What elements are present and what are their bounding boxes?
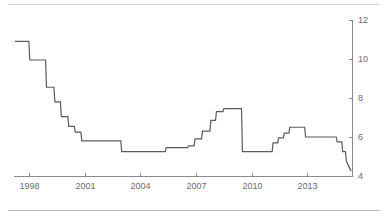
x-axis-tick-labels: 199820012004200720102013 — [19, 181, 317, 191]
series-line-rate — [15, 41, 351, 171]
y-tick-label-10: 10 — [358, 54, 368, 64]
y-tick-label-8: 8 — [358, 93, 363, 103]
y-tick-label-4: 4 — [358, 171, 363, 181]
y-axis-tick-labels: 4681012 — [358, 15, 368, 181]
x-tick-label-1998: 1998 — [19, 181, 39, 191]
chart-canvas: 4681012 199820012004200720102013 — [0, 0, 388, 216]
series-group — [15, 41, 351, 171]
x-tick-label-2010: 2010 — [242, 181, 262, 191]
x-tick-label-2001: 2001 — [75, 181, 95, 191]
y-tick-label-12: 12 — [358, 15, 368, 25]
y-tick-label-6: 6 — [358, 132, 363, 142]
x-tick-label-2013: 2013 — [297, 181, 317, 191]
axis-group — [14, 20, 353, 177]
x-tick-label-2007: 2007 — [186, 181, 206, 191]
line-chart-plot: 4681012 199820012004200720102013 — [0, 0, 388, 216]
x-tick-label-2004: 2004 — [130, 181, 150, 191]
